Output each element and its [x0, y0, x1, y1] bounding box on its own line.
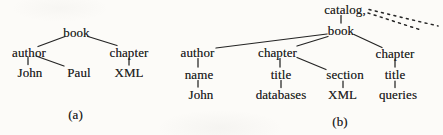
tree-a-node-author: author [12, 45, 46, 58]
caption-b: (b) [332, 114, 347, 127]
tree-b-node-author: author [181, 46, 215, 59]
caption-a: (a) [68, 108, 83, 121]
tree-b-node-john: John [189, 87, 214, 100]
edge-b-catalog-elided-1 [369, 10, 438, 27]
tree-b-node-databases: databases [256, 88, 307, 101]
xml-trees-figure: book author chapter John Paul XML (a) ca… [0, 0, 443, 135]
tree-a-node-john: John [18, 65, 43, 78]
tree-a-node-book: book [63, 25, 89, 38]
tree-b-node-book: book [328, 24, 354, 37]
tree-b-node-chapter-1: chapter [258, 46, 297, 59]
tree-a-node-xml: XML [114, 66, 143, 79]
tree-b-node-name: name [185, 67, 214, 80]
edge-b-book-chapter1 [297, 37, 328, 47]
tree-b-node-title-1: title [271, 67, 292, 80]
tree-b-node-title-2: title [385, 68, 406, 81]
tree-b-node-queries: queries [379, 88, 417, 101]
tree-b-node-xml: XML [328, 88, 357, 101]
edge-b-chapter1-section [297, 58, 326, 70]
tree-a-node-paul: Paul [67, 65, 91, 78]
tree-b-node-chapter-2: chapter [376, 46, 415, 59]
tree-b-node-catalog: catalog, [324, 2, 366, 15]
tree-a-node-chapter: chapter [110, 45, 149, 58]
tree-b-node-section: section [326, 68, 364, 81]
